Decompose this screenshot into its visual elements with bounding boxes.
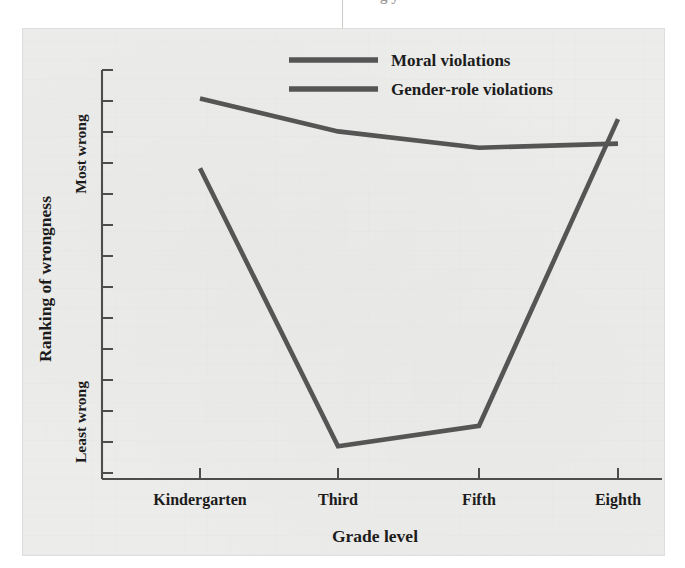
line-chart: Moral violations Gender-role violations <box>23 29 665 556</box>
y-axis-label-least-wrong: Least wrong <box>72 381 89 463</box>
y-axis-ticks <box>102 70 113 473</box>
x-axis-label-third: Third <box>318 491 358 508</box>
x-axis-label-fifth: Fifth <box>462 491 496 508</box>
x-axis-label-kindergarten: Kindergarten <box>153 491 246 509</box>
x-axis-label-eighth: Eighth <box>595 491 641 509</box>
page-rule-divider <box>342 0 343 28</box>
data-series-group <box>200 99 618 447</box>
y-axis-label-most-wrong: Most wrong <box>72 114 89 194</box>
x-axis-title: Grade level <box>332 526 418 546</box>
series-line-gender-role-violations <box>200 119 618 446</box>
series-line-moral-violations <box>200 99 618 148</box>
y-axis-title: Ranking of wrongness <box>35 196 55 362</box>
x-axis-ticks <box>200 468 618 479</box>
figure-panel: Moral violations Gender-role violations <box>22 28 665 556</box>
axis-lines <box>102 70 662 479</box>
legend-label-gender-role-violations: Gender-role violations <box>391 80 553 99</box>
page-bleed-text: g y <box>380 0 680 10</box>
chart-legend: Moral violations Gender-role violations <box>289 51 553 99</box>
legend-label-moral-violations: Moral violations <box>391 51 511 70</box>
